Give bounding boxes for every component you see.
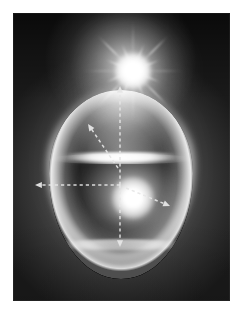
sun-disc: [115, 53, 151, 89]
illustration-frame: [13, 13, 230, 301]
image-canvas: [0, 0, 243, 316]
core-hotspot: [125, 190, 141, 206]
